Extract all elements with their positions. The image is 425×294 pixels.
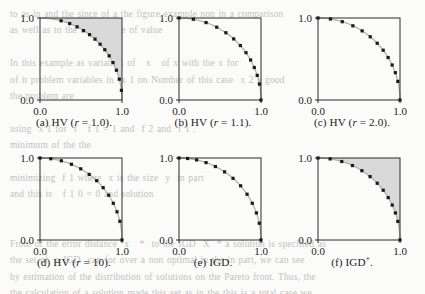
panel-b: 0.01.00.01.0 (b) HV (r = 1.1).	[143, 8, 282, 148]
data-point	[394, 211, 397, 214]
y-tick-label: 1.0	[298, 12, 312, 24]
data-point	[231, 177, 234, 180]
data-point	[204, 21, 207, 24]
data-point	[95, 179, 98, 182]
axis-frame	[179, 158, 261, 240]
data-point	[368, 175, 371, 178]
axis-frame	[179, 18, 261, 100]
caption-period: .	[387, 116, 390, 128]
caption-period: .	[229, 256, 232, 268]
data-point	[118, 220, 121, 223]
data-point	[394, 71, 397, 74]
data-point	[244, 51, 247, 54]
data-point	[249, 58, 252, 61]
data-point	[245, 193, 248, 196]
plot-area-d: 0.01.00.01.0	[4, 148, 144, 260]
y-tick-label: 1.0	[298, 152, 312, 164]
data-point	[351, 24, 354, 27]
data-point	[49, 157, 52, 160]
panel-caption-e: (e) IGD.	[143, 256, 283, 268]
data-point	[224, 31, 227, 34]
data-point	[251, 202, 254, 205]
y-tick-label: 1.0	[159, 12, 173, 24]
plot-svg-e: 0.01.00.01.0	[143, 148, 283, 260]
panel-f: 0.01.00.01.0 (f) IGD+.	[282, 148, 421, 288]
data-point	[115, 210, 118, 213]
data-point	[75, 25, 78, 28]
caption-period: .	[109, 116, 112, 128]
data-point	[329, 157, 332, 160]
y-tick-label: 1.0	[159, 152, 173, 164]
caption-index: (a) HV	[36, 116, 68, 128]
data-point	[38, 156, 41, 159]
data-point	[79, 167, 82, 170]
data-point	[103, 48, 106, 51]
data-point	[177, 156, 180, 159]
data-point	[186, 157, 189, 160]
caption-paren-open: (	[207, 116, 214, 128]
data-point	[259, 98, 262, 101]
data-point	[215, 26, 218, 29]
data-point	[369, 35, 372, 38]
plot-area-e: 0.01.00.01.0	[143, 148, 283, 260]
data-point	[99, 43, 102, 46]
pareto-front-curve	[179, 18, 261, 100]
plot-svg-d: 0.01.00.01.0	[4, 148, 144, 260]
data-point	[398, 98, 401, 101]
panel-a: 0.01.00.01.0 (a) HV (r = 1.0).	[4, 8, 143, 148]
data-point	[340, 160, 343, 163]
panel-c: 0.01.00.01.0 (c) HV (r = 2.0).	[282, 8, 421, 148]
data-point	[396, 220, 399, 223]
caption-index: (b) HV	[175, 116, 207, 128]
plot-area-f: 0.01.00.01.0	[282, 148, 422, 260]
pareto-front-curve	[179, 158, 261, 240]
panel-row-top: 0.01.00.01.0 (a) HV (r = 1.0). 0.01.00.0…	[4, 8, 421, 148]
data-point	[115, 69, 118, 72]
panel-e: 0.01.00.01.0 (e) IGD.	[143, 148, 282, 288]
caption-param-value: = 1.1)	[218, 116, 248, 128]
caption-param-value: = 10)	[81, 256, 108, 268]
data-point	[177, 16, 180, 19]
data-point	[68, 22, 71, 25]
data-point	[382, 49, 385, 52]
data-point	[108, 54, 111, 57]
caption-index: (d) HV	[37, 256, 69, 268]
data-point	[120, 89, 123, 92]
data-point	[256, 74, 259, 77]
panel-d: 0.01.00.01.0 (d) HV (r = 10).	[4, 148, 143, 288]
data-point	[376, 42, 379, 45]
data-point	[192, 18, 195, 21]
plot-svg-a: 0.01.00.01.0	[4, 8, 144, 120]
data-point	[361, 29, 364, 32]
data-point	[60, 159, 63, 162]
data-point	[204, 161, 207, 164]
panel-caption-b: (b) HV (r = 1.1).	[143, 116, 283, 128]
plot-area-c: 0.01.00.01.0	[282, 8, 422, 120]
data-point	[255, 211, 258, 214]
caption-period: .	[249, 116, 252, 128]
figure-panel-grid: 0.01.00.01.0 (a) HV (r = 1.0). 0.01.00.0…	[0, 0, 425, 294]
data-point	[223, 170, 226, 173]
data-point	[195, 158, 198, 161]
caption-index: (c) HV	[314, 116, 346, 128]
data-point	[391, 63, 394, 66]
data-point	[387, 56, 390, 59]
data-point	[232, 37, 235, 40]
y-tick-label: 1.0	[20, 12, 34, 24]
data-point	[258, 222, 261, 225]
caption-period: .	[370, 256, 373, 268]
data-point	[82, 29, 85, 32]
data-point	[341, 20, 344, 23]
plot-svg-f: 0.01.00.01.0	[282, 148, 422, 260]
data-point	[112, 202, 115, 205]
data-point	[70, 163, 73, 166]
data-point	[376, 182, 379, 185]
data-point	[214, 165, 217, 168]
panel-caption-f: (f) IGD+.	[282, 256, 422, 268]
data-point	[391, 203, 394, 206]
data-point	[398, 238, 401, 241]
data-point	[351, 164, 354, 167]
panel-row-bottom: 0.01.00.01.0 (d) HV (r = 10). 0.01.00.01…	[4, 148, 421, 288]
shaded-region	[40, 18, 122, 100]
data-point	[88, 173, 91, 176]
